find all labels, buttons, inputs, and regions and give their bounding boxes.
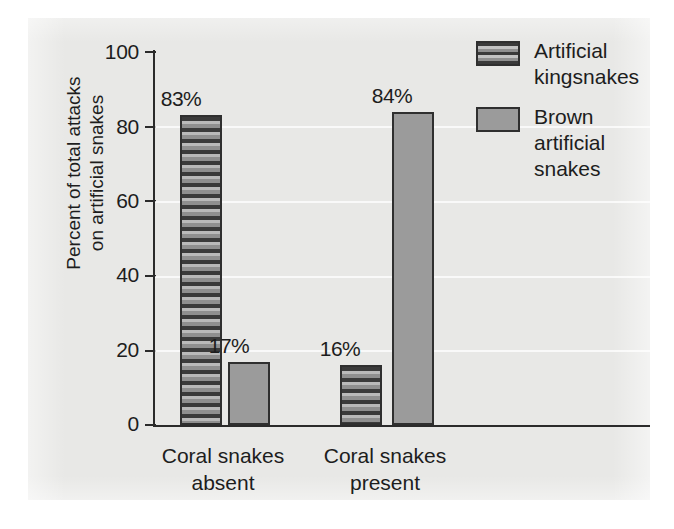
legend-item-kingsnakes[interactable]: Artificial kingsnakes [476,38,656,90]
bar-absent-kingsnakes[interactable] [180,115,222,425]
legend: Artificial kingsnakes Brown artificial s… [476,38,656,196]
bar-value-present-kingsnakes: 16% [300,337,380,361]
bar-value-absent-brown: 17% [189,334,269,358]
x-category-present-line2: present [290,469,480,496]
x-category-label-present: Coral snakes present [290,442,480,496]
legend-label-kingsnakes-line1: Artificial [534,38,639,64]
legend-swatch-striped-icon [476,41,520,66]
y-tick-label-20: 20 [79,338,139,362]
bar-present-kingsnakes[interactable] [340,365,382,425]
legend-label-brown-line1: Brown [534,104,605,130]
legend-label-brown-line3: snakes [534,156,605,182]
x-axis-line [153,425,650,427]
legend-label-kingsnakes-line2: kingsnakes [534,64,639,90]
legend-swatch-solid-icon [476,107,520,132]
y-tick-label-40: 40 [79,263,139,287]
legend-label-kingsnakes: Artificial kingsnakes [534,38,639,90]
y-tick-label-100: 100 [79,40,139,64]
figure-root: Percent of total attacks on artificial s… [0,0,674,529]
legend-label-brown-line2: artificial [534,130,605,156]
y-tick-label-80: 80 [79,115,139,139]
bar-present-brown[interactable] [392,112,434,425]
bar-absent-brown[interactable] [228,362,270,425]
y-tick-label-0: 0 [79,412,139,436]
bar-value-absent-kingsnakes: 83% [141,87,221,111]
x-category-present-line1: Coral snakes [290,442,480,469]
bar-value-present-brown: 84% [352,84,432,108]
y-tick-label-60: 60 [79,189,139,213]
legend-item-brown[interactable]: Brown artificial snakes [476,104,656,182]
legend-label-brown: Brown artificial snakes [534,104,605,182]
